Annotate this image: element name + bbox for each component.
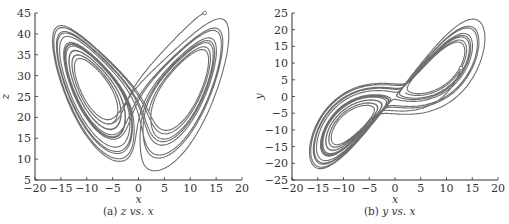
y-tick-label: −10 [265, 124, 288, 137]
start-marker [459, 66, 463, 70]
y-tick-label: 45 [17, 7, 31, 20]
x-tick-label: 5 [417, 182, 424, 195]
x-tick-label: 20 [235, 182, 249, 195]
plot-z-vs-x: −20−15−10−50510152051015202530354045xz [0, 7, 249, 206]
trajectory-line [310, 19, 485, 169]
x-tick-label: −15 [49, 182, 72, 195]
start-marker [203, 11, 207, 15]
x-tick-label: 15 [465, 182, 479, 195]
x-tick-label: −15 [306, 182, 329, 195]
y-tick-label: 15 [17, 132, 31, 145]
y-tick-label: −25 [265, 174, 288, 187]
caption-b: (b) y vs. x [364, 205, 415, 217]
y-tick-label: 5 [24, 174, 31, 187]
y-tick-label: −15 [265, 141, 288, 154]
trajectory-line [53, 13, 229, 171]
caption-a: (a) z vs. x [103, 205, 154, 217]
y-tick-label: 10 [274, 57, 288, 70]
y-tick-label: 35 [17, 49, 31, 62]
y-tick-label: 30 [17, 70, 31, 83]
y-tick-label: 25 [17, 91, 31, 104]
y-tick-label: −20 [265, 157, 288, 170]
y-tick-label: 20 [17, 111, 31, 124]
y-tick-label: 0 [281, 91, 288, 104]
x-tick-label: 5 [161, 182, 168, 195]
y-axis-label: z [0, 93, 12, 100]
y-tick-label: 25 [274, 7, 288, 20]
x-tick-label: 15 [209, 182, 223, 195]
x-tick-label: −5 [105, 182, 121, 195]
y-tick-label: 5 [281, 74, 288, 87]
y-tick-label: 40 [17, 28, 31, 41]
figure: −20−15−10−50510152051015202530354045xz−2… [0, 0, 509, 224]
y-tick-label: 20 [274, 24, 288, 37]
y-axis-label: y [253, 93, 266, 101]
x-tick-label: −5 [361, 182, 377, 195]
plot-y-vs-x: −20−15−10−505101520−25−20−15−10−50510152… [253, 7, 505, 206]
x-tick-label: 10 [183, 182, 197, 195]
x-tick-label: −10 [75, 182, 98, 195]
y-tick-label: 15 [274, 40, 288, 53]
y-tick-label: 10 [17, 153, 31, 166]
x-tick-label: 10 [440, 182, 454, 195]
x-tick-label: −10 [332, 182, 355, 195]
x-tick-label: 20 [491, 182, 505, 195]
y-tick-label: −5 [272, 107, 288, 120]
